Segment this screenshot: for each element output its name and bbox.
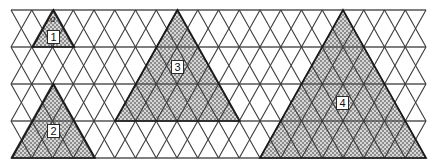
triangle-label-4: 4 [336, 96, 349, 110]
side-length-label-a: a [50, 13, 56, 24]
triangle-label-1: 1 [47, 30, 60, 44]
triangular-lattice-diagram [0, 0, 439, 166]
triangle-label-2: 2 [47, 124, 60, 138]
triangle-label-3: 3 [171, 60, 184, 74]
triangular-grid-figure: a 1 2 3 4 [0, 0, 439, 166]
